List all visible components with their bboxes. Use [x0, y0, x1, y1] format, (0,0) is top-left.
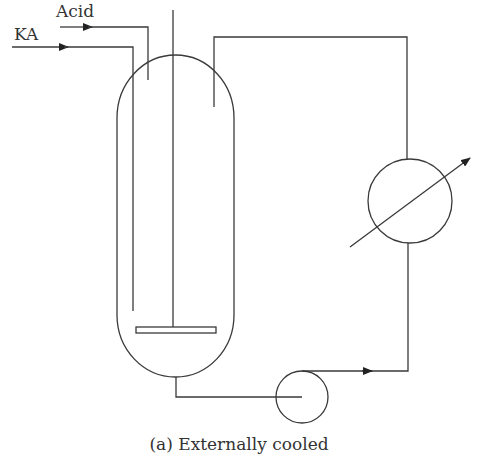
heat-exchanger-circle	[368, 159, 452, 243]
diagram-caption: (a) Externally cooled	[149, 434, 328, 454]
acid-label: Acid	[55, 1, 94, 21]
agitator-blade	[136, 327, 216, 333]
heat-exchanger	[350, 158, 470, 247]
ka-feed-pipe	[12, 47, 133, 311]
exchanger-outlet-pipe	[362, 243, 408, 371]
process-diagram: Acid KA (a) Externally cooled	[0, 0, 478, 460]
ka-label: KA	[14, 24, 39, 44]
recycle-return-pipe	[214, 37, 407, 160]
